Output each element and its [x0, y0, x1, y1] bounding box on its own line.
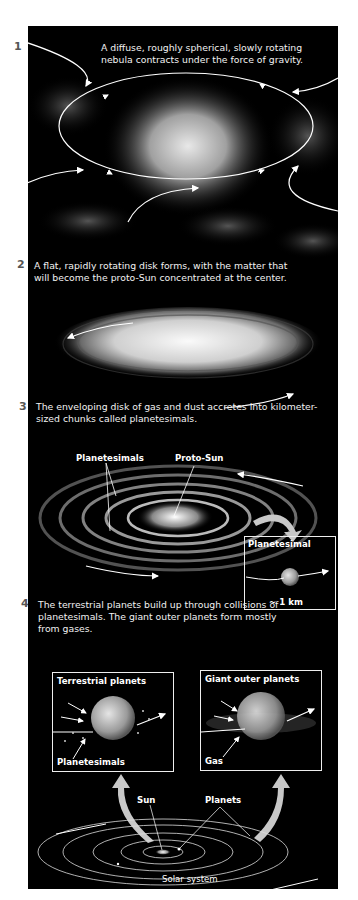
planetesimal-inset: Planetesimal ~ 1 km: [244, 536, 336, 610]
step-number-3: 3: [19, 400, 27, 413]
step-1-caption-line2: nebula contracts under the force of grav…: [101, 54, 303, 66]
step-2-caption-line2: will become the proto-Sun concentrated a…: [34, 272, 287, 284]
step-4-caption-line1: The terrestrial planets build up through…: [38, 599, 278, 611]
step-3-caption-line2: sized chunks called planetesimals.: [36, 413, 317, 425]
planetesimal-inset-title: Planetesimal: [248, 539, 311, 549]
sun-label: Sun: [137, 795, 155, 805]
giant-outer-planets-inset: Giant outer planets Gas: [200, 670, 322, 771]
step-1-caption: A diffuse, roughly spherical, slowly rot…: [101, 42, 303, 66]
step-3-caption: The enveloping disk of gas and dust accr…: [36, 401, 317, 425]
step-4-caption-line3: from gases.: [38, 623, 278, 635]
gas-label: Gas: [205, 756, 223, 766]
step-4-caption: The terrestrial planets build up through…: [38, 599, 278, 636]
step-3-caption-line1: The enveloping disk of gas and dust accr…: [36, 401, 317, 413]
planetesimals-label: Planetesimals: [76, 453, 144, 463]
terrestrial-planetesimals-label: Planetesimals: [57, 757, 125, 767]
proto-sun-label: Proto-Sun: [175, 453, 223, 463]
step-number-2: 2: [17, 258, 25, 271]
step-number-1: 1: [14, 40, 22, 53]
step-4-caption-line2: planetesimals. The giant outer planets f…: [38, 611, 278, 623]
diagram-panel: A diffuse, roughly spherical, slowly rot…: [28, 26, 338, 889]
solar-system-label: Solar system: [162, 874, 218, 884]
step-2-caption: A flat, rapidly rotating disk forms, wit…: [34, 260, 287, 284]
giant-outer-planets-title: Giant outer planets: [205, 674, 299, 684]
terrestrial-planets-inset: Terrestrial planets Planetesimals: [52, 672, 174, 772]
terrestrial-planets-title: Terrestrial planets: [57, 676, 146, 686]
step-2-caption-line1: A flat, rapidly rotating disk forms, wit…: [34, 260, 287, 272]
planets-label: Planets: [205, 795, 241, 805]
scale-label: ~ 1 km: [269, 597, 303, 607]
step-1-caption-line1: A diffuse, roughly spherical, slowly rot…: [101, 42, 303, 54]
